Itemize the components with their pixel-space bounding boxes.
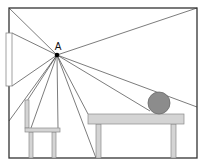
light-ray: [57, 8, 197, 55]
light-ray: [57, 55, 150, 111]
light-ray: [12, 55, 57, 86]
light-ray: [57, 55, 96, 158]
light-rays: [9, 8, 197, 158]
ball: [148, 92, 170, 114]
table: [88, 114, 184, 158]
chair-back: [25, 100, 29, 128]
light-ray: [57, 55, 88, 114]
light-source-point: [55, 53, 60, 58]
table-leg: [171, 124, 176, 158]
chair: [25, 100, 60, 158]
light-ray: [57, 55, 197, 107]
light-ray: [9, 55, 57, 121]
chair-leg: [29, 132, 33, 158]
light-ray: [27, 55, 57, 101]
chair-seat: [25, 128, 60, 132]
light-ray: [9, 8, 57, 55]
window: [6, 33, 12, 86]
room-diagram: A: [0, 0, 205, 166]
light-ray: [12, 33, 57, 55]
table-leg: [96, 124, 101, 158]
light-ray: [57, 55, 58, 128]
table-top: [88, 114, 184, 124]
point-label: A: [55, 41, 62, 52]
light-ray: [31, 55, 57, 128]
chair-leg: [52, 132, 56, 158]
